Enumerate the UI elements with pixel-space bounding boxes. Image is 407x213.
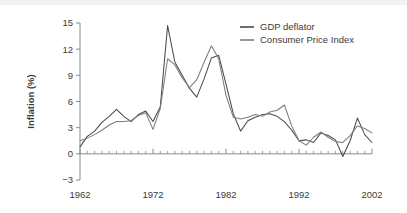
y-tick-label: 15 [62,17,73,28]
y-tick-label: 0 [68,148,73,159]
x-tick-label: 1972 [142,189,163,200]
series-line-consumer-price-index [80,46,372,145]
legend-label-gdp-deflator: GDP deflator [260,21,315,32]
y-axis-title: Inflation (%) [25,74,36,128]
x-tick-label: 1962 [69,189,90,200]
x-tick-label: 1992 [288,189,309,200]
y-tick-label: 6 [68,96,73,107]
y-tick-label: 3 [68,122,73,133]
inflation-line-chart: −30369121519621972198219922002Inflation … [0,0,407,213]
chart-figure: −30369121519621972198219922002Inflation … [0,0,407,213]
x-tick-label: 1982 [215,189,236,200]
y-tick-label: 12 [62,44,73,55]
x-tick-label: 2002 [361,189,382,200]
y-tick-label: −3 [62,174,73,185]
legend-label-consumer-price-index: Consumer Price Index [260,34,354,45]
y-tick-label: 9 [68,70,73,81]
